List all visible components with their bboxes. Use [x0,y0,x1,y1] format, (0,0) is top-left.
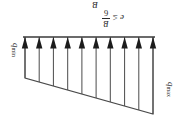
condition-relation: ≤ [113,14,118,24]
arrowhead-down [36,37,42,49]
fraction-numerator: B [102,19,109,28]
pressure-ordinate-lines [25,37,153,114]
arrowhead-down [79,37,85,49]
arrowhead-down [107,37,113,49]
arrowhead-down [65,37,71,49]
condition-variable: e [120,14,124,24]
fraction-denominator: 6 [103,9,109,18]
arrowhead-down [22,37,28,49]
pressure-distribution-drawing [0,0,182,125]
arrowhead-down [150,37,156,49]
arrowhead-down [50,37,56,49]
eccentricity-condition: e ≤ B 6 [102,9,124,28]
arrowhead-down [121,37,127,49]
q-max-subscript: max [166,87,172,98]
bearing-pressure-figure: qmax qmin B e ≤ B 6 [0,0,182,125]
arrowhead-down [136,37,142,49]
figure-rotation-wrapper: qmax qmin B e ≤ B 6 [0,0,182,125]
load-arrowheads [22,37,156,49]
pressure-trapezoid-outline [25,37,153,114]
width-dimension-label: B [93,0,99,9]
q-min-label: qmin [11,43,20,57]
fraction-bar [102,18,110,19]
arrowhead-down [93,37,99,49]
q-min-subscript: min [11,48,17,58]
q-max-label: qmax [166,82,175,97]
condition-fraction: B 6 [102,9,110,28]
